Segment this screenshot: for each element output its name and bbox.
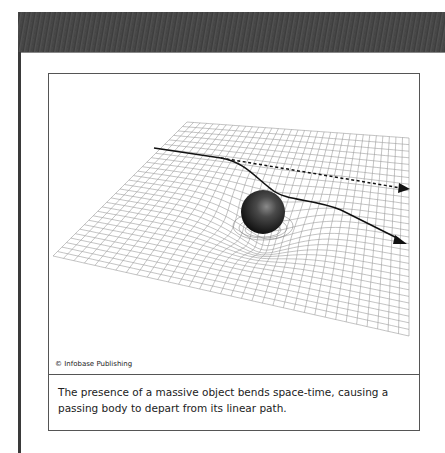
massive-sphere bbox=[241, 190, 285, 234]
image-credit: © Infobase Publishing bbox=[55, 360, 132, 368]
header-bar bbox=[18, 12, 445, 53]
figure-panel: © Infobase Publishing bbox=[48, 73, 420, 376]
grid-plane bbox=[53, 122, 409, 336]
left-margin-rule bbox=[18, 52, 21, 453]
spacetime-illustration bbox=[49, 74, 419, 354]
caption-panel: The presence of a massive object bends s… bbox=[48, 374, 420, 431]
figure-caption: The presence of a massive object bends s… bbox=[58, 384, 408, 416]
